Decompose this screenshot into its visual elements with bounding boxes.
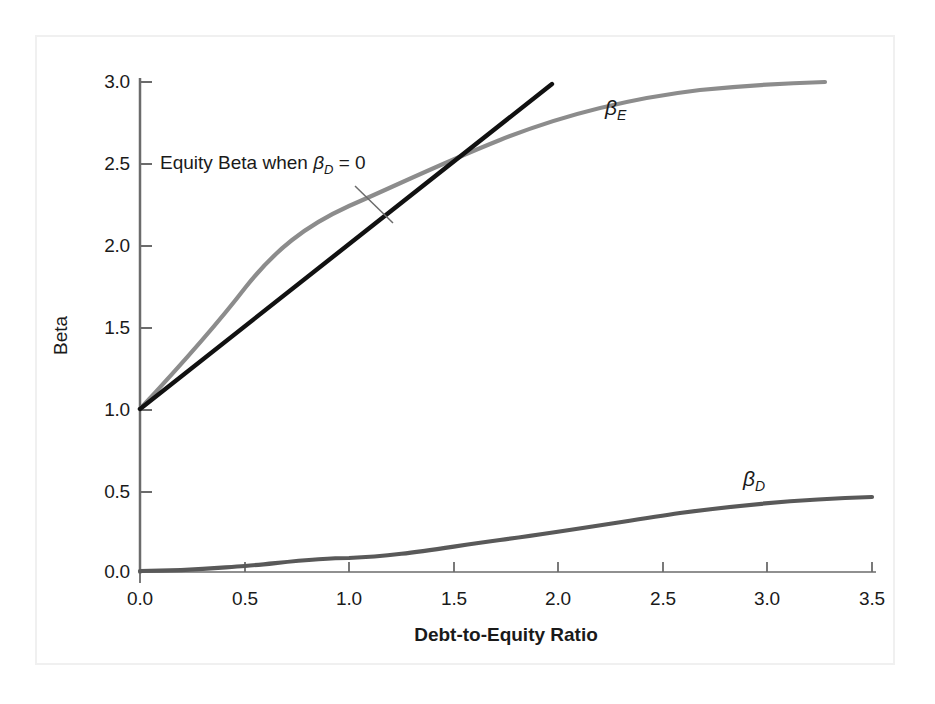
y-tick-label-0-5: 0.5: [78, 481, 130, 503]
x-tick-label-2-5: 2.5: [633, 588, 693, 610]
annotation-beta-symbol: β: [313, 152, 324, 173]
annotation-suffix-text: = 0: [333, 152, 365, 173]
x-tick-label-3-5: 3.5: [842, 588, 902, 610]
y-tick-label-0-0: 0.0: [78, 561, 130, 583]
y-tick-label-2-0: 2.0: [78, 235, 130, 257]
y-tick-label-1-5: 1.5: [78, 317, 130, 339]
series-beta-d-curve: [140, 497, 872, 571]
y-tick-label-2-5: 2.5: [78, 153, 130, 175]
series-equity-beta-zero-debt-line: [140, 84, 552, 409]
y-axis-title: Beta: [50, 316, 72, 355]
series-beta-e-curve: [140, 82, 825, 409]
x-axis-title: Debt-to-Equity Ratio: [306, 624, 706, 646]
beta-e-subscript: E: [617, 107, 626, 123]
series-label-beta-d: βD: [743, 467, 765, 494]
annotation-equity-beta-note: Equity Beta when βD = 0: [160, 152, 366, 177]
x-tick-label-1-5: 1.5: [424, 588, 484, 610]
x-tick-label-0-0: 0.0: [110, 588, 170, 610]
annotation-leader-line: [355, 186, 393, 223]
x-tick-label-1-0: 1.0: [319, 588, 379, 610]
annotation-prefix-text: Equity Beta when: [160, 152, 313, 173]
beta-d-subscript: D: [755, 478, 765, 494]
x-tick-label-2-0: 2.0: [528, 588, 588, 610]
beta-d-symbol: β: [743, 467, 755, 490]
beta-e-symbol: β: [605, 96, 617, 119]
y-tick-label-1-0: 1.0: [78, 399, 130, 421]
y-axis-ticks: [140, 82, 152, 492]
series-label-beta-e: βE: [605, 96, 626, 123]
x-tick-label-3-0: 3.0: [737, 588, 797, 610]
x-tick-label-0-5: 0.5: [215, 588, 275, 610]
y-tick-label-3-0: 3.0: [78, 71, 130, 93]
annotation-beta-subscript: D: [324, 162, 333, 177]
chart-figure: 3.0 2.5 2.0 1.5 1.0 0.5 0.0 0.0 0.5 1.0 …: [0, 0, 935, 704]
